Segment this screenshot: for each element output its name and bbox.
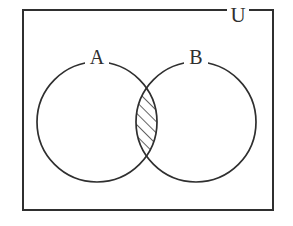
set-b-label: B <box>189 46 202 68</box>
set-a-label: A <box>90 46 105 68</box>
venn-diagram-canvas: U A B <box>0 0 293 226</box>
universal-set-label: U <box>230 3 245 27</box>
venn-diagram-figure: U A B <box>0 0 293 226</box>
